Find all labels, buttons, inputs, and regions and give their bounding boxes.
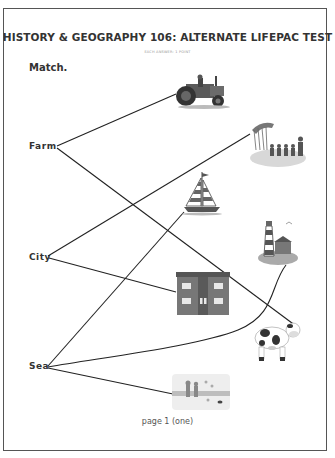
lighthouse-picture — [256, 218, 300, 268]
tractor-picture — [174, 74, 230, 110]
sailboat-picture — [180, 170, 224, 216]
parade-picture — [248, 120, 308, 168]
line-farm-tractor — [57, 94, 176, 146]
beach-children-picture — [172, 374, 230, 410]
line-city-building — [49, 258, 176, 292]
cow-picture — [250, 318, 304, 364]
apartment-building-picture — [176, 272, 230, 316]
line-sea-beach — [48, 368, 173, 394]
page-number: page 1 (one) — [0, 417, 335, 426]
